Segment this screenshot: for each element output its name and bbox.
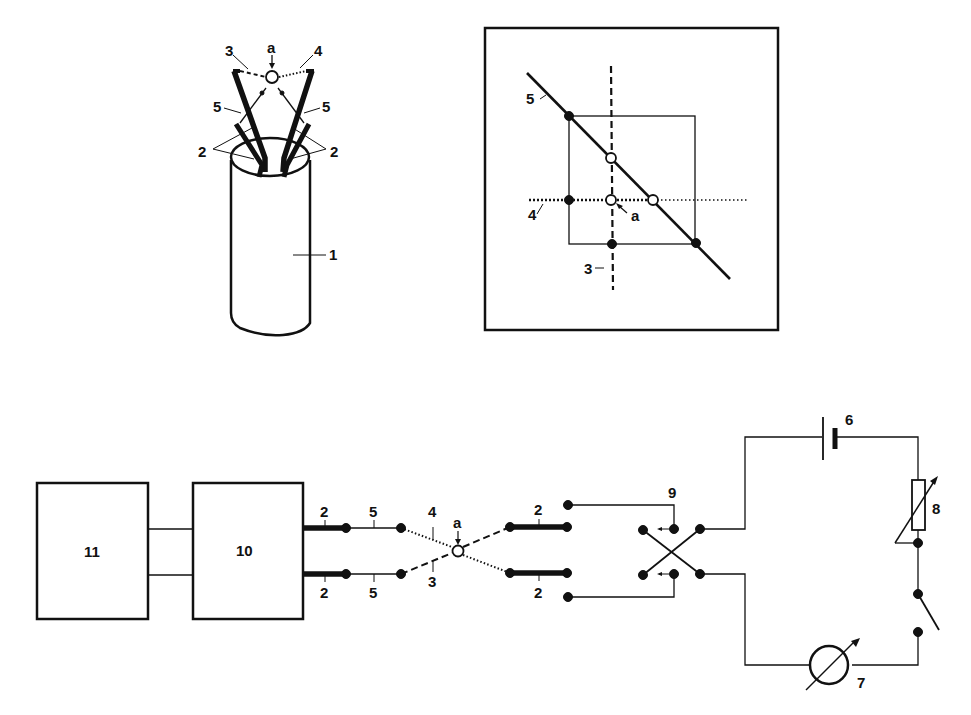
wire-key-to-meter bbox=[852, 632, 918, 665]
label-a: a bbox=[267, 39, 276, 56]
point-filled bbox=[565, 112, 574, 121]
leader-4 bbox=[537, 204, 543, 214]
label-a: a bbox=[631, 207, 640, 224]
probe-perspective bbox=[213, 55, 326, 335]
label-5-bottom: 5 bbox=[369, 584, 377, 601]
node bbox=[563, 569, 572, 578]
wire-3-dashed bbox=[240, 71, 266, 77]
leader-4 bbox=[300, 55, 313, 68]
label-4: 4 bbox=[428, 503, 437, 520]
junction-a bbox=[266, 71, 278, 83]
label-5: 5 bbox=[526, 90, 534, 107]
arrow-head-icon bbox=[851, 638, 860, 647]
label-6: 6 bbox=[845, 411, 853, 428]
label-2-top: 2 bbox=[320, 503, 328, 520]
leader-5-right bbox=[304, 108, 320, 113]
label-2-left: 2 bbox=[198, 143, 206, 160]
meter-7 bbox=[810, 646, 848, 684]
block-11-label: 11 bbox=[84, 543, 100, 560]
wire-3-dashed-left bbox=[401, 553, 452, 574]
label-3: 3 bbox=[428, 573, 436, 590]
switch-contact bbox=[670, 570, 679, 579]
node bbox=[563, 523, 572, 532]
point-open bbox=[606, 153, 616, 163]
label-1: 1 bbox=[329, 246, 337, 263]
label-5-top: 5 bbox=[369, 503, 377, 520]
label-7: 7 bbox=[857, 674, 865, 691]
arrow-head-icon bbox=[455, 539, 461, 545]
reversing-switch-9 bbox=[639, 525, 705, 580]
leader-5-left bbox=[224, 108, 241, 113]
label-2-right: 2 bbox=[330, 143, 338, 160]
label-9: 9 bbox=[668, 484, 676, 501]
wire-4-dotted-right bbox=[463, 555, 510, 573]
junction-a bbox=[453, 546, 464, 557]
point-filled bbox=[692, 239, 701, 248]
point-open bbox=[648, 195, 658, 205]
label-a: a bbox=[453, 514, 462, 531]
line-3-dashed bbox=[611, 66, 613, 290]
arrow-head-icon bbox=[269, 63, 275, 69]
arrow-head-icon bbox=[930, 476, 938, 485]
point-filled bbox=[565, 196, 574, 205]
wire-to-battery bbox=[700, 437, 822, 529]
wire-battery-to-resistor bbox=[837, 437, 918, 480]
node bbox=[342, 570, 351, 579]
label-4: 4 bbox=[314, 42, 323, 59]
diagram-canvas: 3 a 4 5 5 2 2 1 5 4 a 3 bbox=[0, 0, 971, 715]
leader-5 bbox=[540, 95, 546, 99]
point-open-junction-a bbox=[606, 195, 616, 205]
node bbox=[506, 569, 515, 578]
wire-5-left-tip bbox=[260, 91, 264, 95]
wire-5-right-tip bbox=[280, 91, 284, 95]
label-5-left: 5 bbox=[213, 98, 221, 115]
label-4: 4 bbox=[528, 206, 537, 223]
label-right-2-top: 2 bbox=[534, 501, 542, 518]
node bbox=[914, 539, 923, 548]
label-right-2-bottom: 2 bbox=[534, 584, 542, 601]
label-3: 3 bbox=[584, 260, 592, 277]
key-blade bbox=[918, 594, 939, 630]
switch-feed-top bbox=[568, 505, 674, 529]
measurement-circuit bbox=[37, 417, 939, 690]
switch-contact bbox=[670, 525, 679, 534]
probe-body-cylinder bbox=[231, 160, 310, 335]
wire-4-dotted-left bbox=[401, 528, 452, 547]
arrow-head-icon bbox=[657, 572, 662, 576]
label-5-right: 5 bbox=[322, 98, 330, 115]
label-3: 3 bbox=[225, 42, 233, 59]
switch-feed-bottom bbox=[568, 574, 674, 597]
crossing-detail bbox=[485, 28, 778, 330]
point-filled bbox=[608, 240, 617, 249]
label-2-bottom: 2 bbox=[320, 584, 328, 601]
leader-3 bbox=[233, 55, 248, 69]
wire-4-dotted bbox=[279, 71, 306, 77]
wire-3-dashed-right bbox=[463, 527, 510, 547]
label-8: 8 bbox=[932, 500, 940, 517]
line-5-diagonal bbox=[527, 73, 730, 279]
block-10-label: 10 bbox=[236, 542, 253, 559]
wire-meter-to-switch bbox=[700, 574, 810, 665]
node bbox=[506, 523, 515, 532]
arrow-head-icon bbox=[657, 527, 662, 531]
node bbox=[342, 524, 351, 533]
